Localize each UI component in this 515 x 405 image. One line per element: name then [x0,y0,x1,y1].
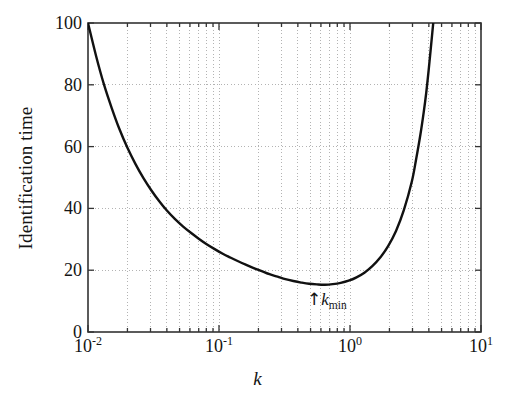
k-min-marker: ↑kmin [307,289,347,310]
x-axis-label: k [0,368,515,390]
up-arrow-icon: ↑ [307,289,321,309]
plot-background [88,23,481,332]
x-tick-label: 100 [338,336,362,357]
x-tick-label: 101 [469,336,493,357]
k-symbol: k [321,290,329,309]
x-tick-label: 10-2 [74,336,102,357]
x-tick-label: 10-1 [205,336,233,357]
chart-figure: Identification time 020406080100 10-210-… [0,0,515,405]
k-subscript: min [329,299,347,311]
